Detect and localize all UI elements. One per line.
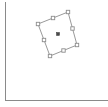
handle-corner-left[interactable] xyxy=(36,22,39,25)
handle-corner-right[interactable] xyxy=(75,43,78,46)
handle-mid-bottom-right[interactable] xyxy=(62,49,65,52)
rotated-selection-box[interactable] xyxy=(0,0,108,107)
handle-mid-top-left[interactable] xyxy=(51,16,54,19)
handle-corner-bottom[interactable] xyxy=(48,54,51,57)
handle-mid-top-right[interactable] xyxy=(71,27,74,30)
handle-corner-top[interactable] xyxy=(66,10,69,13)
center-pivot-icon[interactable] xyxy=(57,33,60,36)
handle-mid-bottom-left[interactable] xyxy=(42,38,45,41)
app-root xyxy=(0,0,108,107)
